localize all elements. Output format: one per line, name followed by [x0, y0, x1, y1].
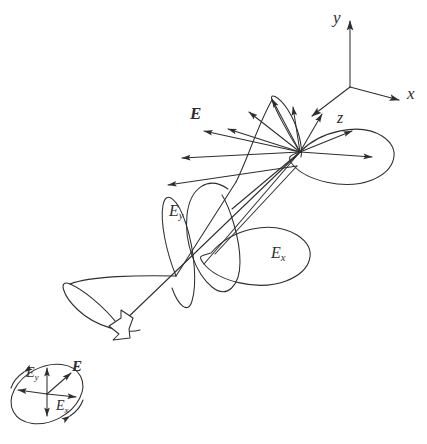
ex-component-envelope — [63, 129, 394, 331]
field-label-Ey-sub: y — [179, 211, 184, 222]
propagation-hollow-arrow — [109, 310, 133, 340]
axis-label-y: y — [333, 9, 341, 26]
axis-triad — [312, 21, 399, 116]
ex-loop-3b — [70, 276, 176, 284]
propagation-axis — [121, 152, 300, 324]
e-vector-r3 — [300, 114, 322, 152]
e-vector-r1 — [300, 152, 372, 157]
inset-label-Ex: Ex — [56, 399, 69, 413]
axis-z — [312, 87, 350, 116]
inset-label-Ey: Ey — [26, 366, 39, 380]
e-tie-3 — [204, 152, 300, 264]
axis-label-z: z — [337, 110, 343, 126]
inset-e-vector — [47, 373, 71, 394]
axis-label-x: x — [407, 85, 415, 102]
inset-label-Ey-sub: y — [35, 373, 39, 382]
e-tie-1 — [232, 152, 300, 209]
inset-rotation-arrow-top — [11, 372, 24, 388]
field-label-E: E — [190, 105, 201, 122]
field-label-Ex-sub: x — [281, 253, 286, 264]
inset-label-Ey-base: E — [26, 365, 35, 380]
ex-loop-2 — [200, 227, 310, 285]
inset-ex-vector-right — [47, 394, 76, 397]
e-vector-r2 — [300, 131, 352, 152]
inset-label-Ex-sub: x — [65, 406, 69, 415]
field-label-Ey: Ey — [169, 203, 183, 219]
ex-loop-1 — [289, 129, 394, 184]
e-vector-r9 — [182, 152, 300, 158]
inset-label-Ex-base: E — [56, 398, 65, 413]
ey-component-envelope — [162, 96, 301, 308]
e-vector-labelled — [204, 131, 300, 152]
field-label-Ex: Ex — [271, 245, 285, 261]
e-vector-m1 — [168, 166, 297, 185]
inset-label-E: E — [72, 359, 82, 374]
field-label-Ey-base: E — [169, 202, 179, 219]
inset-ex-vector-left — [18, 390, 47, 394]
inset-rotation-arrow-bottom — [70, 400, 83, 416]
e-tie-2 — [215, 166, 297, 254]
polarization-figure — [0, 0, 427, 444]
field-label-Ex-base: E — [271, 244, 281, 261]
axis-x — [350, 87, 399, 100]
